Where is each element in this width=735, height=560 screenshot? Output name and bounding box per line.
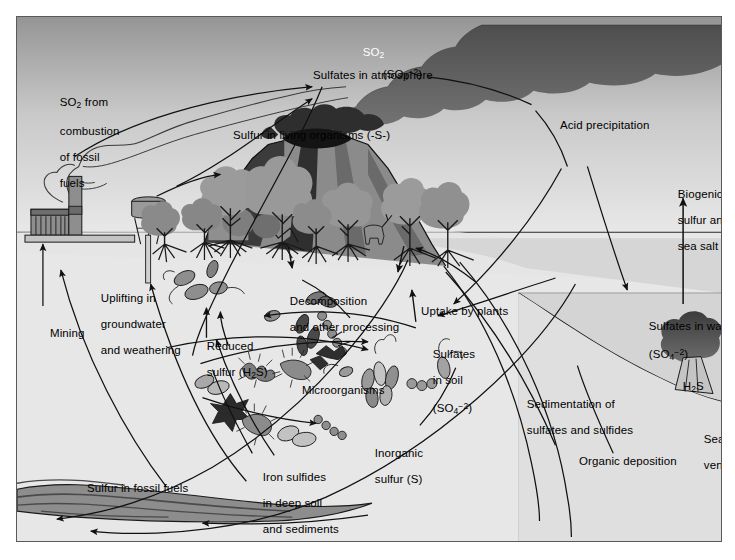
label-sulfur-in-living-organisms: Sulfur in living organisms (-S-) <box>233 129 390 142</box>
label-acid-precipitation: Acid precipitation <box>560 119 649 132</box>
figure-stage: SO2 (SO4−2) Sulfates in atmosphere SO2 f… <box>0 0 735 560</box>
sulfur-cycle-diagram: SO2 (SO4−2) Sulfates in atmosphere SO2 f… <box>16 16 722 542</box>
label-sulfur-in-fossil-fuels: Sulfur in fossil fuels <box>87 482 188 495</box>
label-sulfates-in-soil: Sulfates in soil (SO4−2) <box>413 335 475 431</box>
label-h2s-ocean: H2S <box>663 367 704 409</box>
label-so2-from-combustion: SO2 from combustion of fossil fuels <box>40 83 120 203</box>
label-sedimentation: Sedimentation of sulfates and sulfides <box>507 385 633 450</box>
label-reduced-sulfur: Reduced sulfur (H2S) <box>187 327 268 395</box>
label-mining: Mining <box>50 327 84 340</box>
label-uptake-by-plants: Uptake by plants <box>421 305 508 318</box>
label-biogenic-sulfur: Biogenic sulfur and sea salt <box>658 175 722 266</box>
label-organic-deposition: Organic deposition <box>579 455 677 468</box>
label-seafloor-vent: Seafloor vent <box>684 420 722 485</box>
label-decomposition: Decomposition and other processing <box>270 282 399 347</box>
label-iron-sulfides: Iron sulfides in deep soil and sediments <box>243 458 339 542</box>
label-microorganisms: Microorganisms <box>302 384 385 397</box>
label-uplifting: Uplifting in groundwater and weathering <box>81 279 181 370</box>
label-inorganic-sulfur: Inorganic sulfur (S) <box>355 434 423 499</box>
label-sulfates-in-atmosphere: Sulfates in atmosphere <box>313 69 433 82</box>
